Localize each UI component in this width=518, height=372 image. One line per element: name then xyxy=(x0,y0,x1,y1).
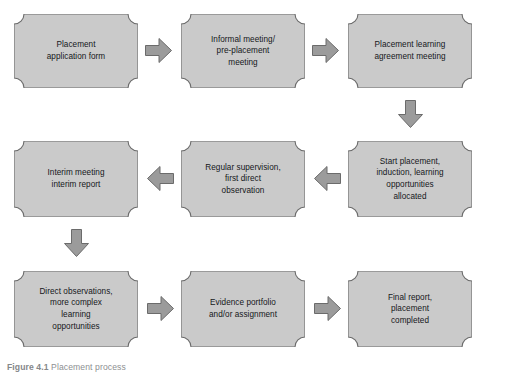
connector-arrow-down-1 xyxy=(396,99,425,129)
flow-node-label: Evidence portfolio and/or assignment xyxy=(209,297,277,320)
flow-node-label: Placement learning agreement meeting xyxy=(374,39,445,62)
connector-arrow-left-2 xyxy=(146,164,175,193)
flow-node-placement-application-form: Placement application form xyxy=(14,14,138,88)
flow-node-label: Interim meeting interim report xyxy=(47,167,104,190)
figure-caption-text: Placement process xyxy=(51,362,126,372)
flow-node-informal-pre-placement-meeting: Informal meeting/ pre-placement meeting xyxy=(181,14,305,88)
connector-arrow-right-2 xyxy=(311,36,340,65)
arrow-right-icon xyxy=(311,36,340,65)
arrow-down-icon xyxy=(396,99,425,129)
flow-node-interim-meeting-interim-report: Interim meeting interim report xyxy=(14,141,138,217)
flow-node-direct-observations-more-complex: Direct observations, more complex learni… xyxy=(14,271,138,347)
flow-node-label: Placement application form xyxy=(47,39,105,62)
figure-caption: Figure 4.1 Placement process xyxy=(7,363,126,372)
flow-node-label: Start placement, induction, learning opp… xyxy=(376,156,443,203)
flow-node-regular-supervision-first-direct-observation: Regular supervision, first direct observ… xyxy=(181,141,305,217)
figure-caption-label: Figure 4.1 xyxy=(7,362,49,372)
flow-node-label: Direct observations, more complex learni… xyxy=(39,286,112,333)
arrow-right-icon xyxy=(313,294,342,323)
arrow-right-icon xyxy=(144,36,173,65)
connector-arrow-right-3 xyxy=(146,294,175,323)
arrow-right-icon xyxy=(146,294,175,323)
arrow-down-icon xyxy=(62,228,91,258)
connector-arrow-right-4 xyxy=(313,294,342,323)
arrow-left-icon xyxy=(313,164,342,193)
flow-node-evidence-portfolio-assignment: Evidence portfolio and/or assignment xyxy=(181,271,305,347)
arrow-left-icon xyxy=(146,164,175,193)
flow-node-label: Regular supervision, first direct observ… xyxy=(205,162,280,197)
connector-arrow-right-1 xyxy=(144,36,173,65)
flow-node-start-placement-induction: Start placement, induction, learning opp… xyxy=(348,141,472,217)
connector-arrow-down-2 xyxy=(62,228,91,258)
flow-node-placement-learning-agreement-meeting: Placement learning agreement meeting xyxy=(348,14,472,88)
flow-node-label: Informal meeting/ pre-placement meeting xyxy=(211,34,275,69)
flow-node-final-report-placement-completed: Final report, placement completed xyxy=(348,271,472,347)
flow-node-label: Final report, placement completed xyxy=(388,292,432,327)
connector-arrow-left-1 xyxy=(313,164,342,193)
